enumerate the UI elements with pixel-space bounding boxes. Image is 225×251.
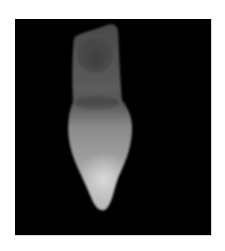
tooth-image (15, 19, 212, 236)
radiograph-frame (15, 19, 212, 236)
tooth-shape (68, 24, 132, 210)
